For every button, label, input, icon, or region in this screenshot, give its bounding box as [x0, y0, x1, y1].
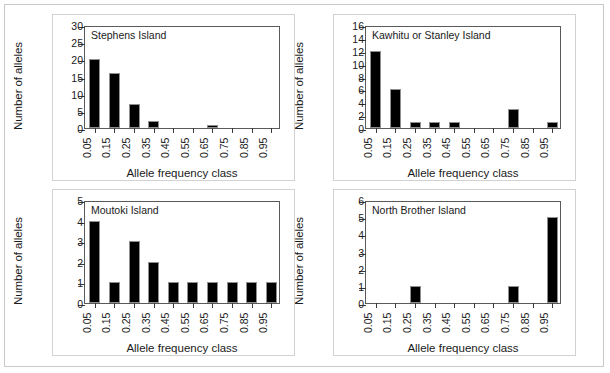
x-tick-mark: [134, 128, 135, 133]
y-tick-label: 2: [358, 264, 364, 277]
bar: [129, 241, 140, 303]
plot-area: North Brother Island01234560.050.150.250…: [365, 201, 561, 304]
y-tick-label: 2: [77, 257, 83, 270]
x-tick-mark: [395, 303, 396, 308]
x-tick-mark: [376, 128, 377, 133]
bar: [148, 262, 159, 303]
bar: [547, 122, 558, 128]
x-axis-title: Allele frequency class: [84, 342, 280, 354]
y-axis-title: Number of alleles: [291, 201, 307, 321]
x-tick-mark: [395, 128, 396, 133]
panel-title: Moutoki Island: [91, 204, 159, 216]
x-tick-mark: [474, 303, 475, 308]
x-tick-label: 0.95: [537, 144, 567, 158]
bar: [449, 122, 460, 128]
y-tick-label: 3: [358, 247, 364, 260]
bar: [148, 121, 159, 128]
y-tick-label: 4: [358, 97, 364, 110]
y-tick-label: 0: [358, 123, 364, 136]
bar: [246, 282, 257, 303]
y-tick-label: 6: [358, 84, 364, 97]
plot-area: Moutoki Island0123450.050.150.250.350.45…: [84, 201, 280, 304]
y-tick-label: 10: [71, 89, 83, 102]
y-tick-label: 1: [358, 281, 364, 294]
bar: [129, 104, 140, 128]
panel-grid: Number of allelesStephens Island05101520…: [5, 5, 605, 368]
x-tick-mark: [154, 128, 155, 133]
y-tick-label: 12: [352, 46, 364, 59]
x-tick-mark: [435, 128, 436, 133]
x-tick-mark: [232, 128, 233, 133]
y-tick-label: 6: [358, 195, 364, 208]
x-tick-mark: [435, 303, 436, 308]
x-tick-label: 0.95: [537, 319, 567, 333]
x-tick-mark: [232, 303, 233, 308]
y-tick-label: 8: [358, 72, 364, 85]
x-tick-mark: [552, 128, 553, 133]
x-tick-mark: [173, 128, 174, 133]
x-axis-title: Allele frequency class: [365, 167, 561, 179]
y-tick-label: 14: [352, 33, 364, 46]
x-tick-mark: [552, 303, 553, 308]
plot-area: Stephens Island0510152025300.050.150.250…: [84, 26, 280, 129]
x-tick-mark: [95, 303, 96, 308]
figure-frame: Number of allelesStephens Island05101520…: [4, 4, 604, 367]
y-axis-title: Number of alleles: [10, 201, 26, 321]
bar: [508, 109, 519, 128]
bar: [109, 282, 120, 303]
bar: [266, 282, 277, 303]
bar: [109, 73, 120, 128]
x-tick-mark: [415, 128, 416, 133]
y-tick-label: 5: [77, 195, 83, 208]
x-tick-mark: [376, 303, 377, 308]
x-tick-mark: [474, 128, 475, 133]
y-tick-label: 20: [71, 54, 83, 67]
bar: [410, 286, 421, 303]
y-tick-label: 0: [77, 123, 83, 136]
y-tick-label: 30: [71, 20, 83, 33]
y-tick-label: 2: [358, 110, 364, 123]
x-tick-mark: [252, 128, 253, 133]
x-axis-title: Allele frequency class: [365, 342, 561, 354]
x-tick-mark: [212, 303, 213, 308]
y-axis-title: Number of alleles: [291, 26, 307, 146]
x-tick-mark: [271, 128, 272, 133]
x-tick-mark: [533, 128, 534, 133]
x-tick-mark: [493, 303, 494, 308]
x-tick-label: 0.95: [256, 144, 286, 158]
panel-title: Stephens Island: [91, 29, 166, 41]
y-tick-label: 5: [77, 106, 83, 119]
panel-title: Kawhitu or Stanley Island: [372, 29, 490, 41]
x-tick-mark: [252, 303, 253, 308]
bar: [508, 286, 519, 303]
y-tick-label: 4: [77, 216, 83, 229]
x-tick-mark: [493, 128, 494, 133]
x-tick-mark: [513, 303, 514, 308]
bar: [89, 59, 100, 128]
x-tick-mark: [154, 303, 155, 308]
bar: [207, 125, 218, 128]
x-tick-mark: [212, 128, 213, 133]
y-tick-label: 0: [77, 298, 83, 311]
chart-panel: Number of allelesMoutoki Island0123450.0…: [52, 189, 295, 356]
y-axis-title: Number of alleles: [10, 26, 26, 146]
y-tick-label: 25: [71, 37, 83, 50]
bar: [168, 282, 179, 303]
y-tick-label: 0: [358, 298, 364, 311]
bar: [410, 122, 421, 128]
x-tick-mark: [513, 128, 514, 133]
y-tick-label: 10: [352, 59, 364, 72]
plot-area: Kawhitu or Stanley Island02468101214160.…: [365, 26, 561, 129]
y-tick-label: 3: [77, 236, 83, 249]
x-tick-mark: [114, 128, 115, 133]
x-tick-mark: [193, 303, 194, 308]
y-tick-label: 4: [358, 229, 364, 242]
y-tick-label: 16: [352, 20, 364, 33]
x-tick-mark: [454, 303, 455, 308]
bar: [187, 282, 198, 303]
y-tick-label: 1: [77, 277, 83, 290]
x-tick-mark: [193, 128, 194, 133]
bar: [370, 51, 381, 128]
y-tick-label: 15: [71, 72, 83, 85]
bar: [547, 217, 558, 303]
